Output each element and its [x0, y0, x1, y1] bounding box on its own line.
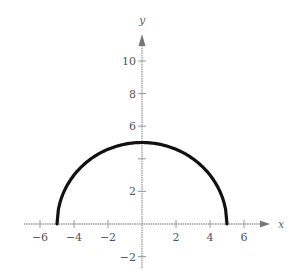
y-axis-label: y [138, 14, 146, 27]
axes [24, 34, 270, 268]
x-tick-label: 2 [173, 231, 180, 244]
x-axis-arrow-icon [260, 221, 270, 228]
y-tick-label: 10 [122, 55, 136, 68]
x-tick-label: 6 [241, 231, 248, 244]
semicircle-chart: −6−4−2246−226810 x y [0, 0, 296, 273]
y-tick-label: 6 [129, 120, 136, 133]
x-tick-label: −4 [66, 231, 82, 244]
x-tick-label: 4 [207, 231, 214, 244]
y-tick-label: −2 [120, 251, 136, 264]
y-tick-label: 8 [129, 88, 136, 101]
x-tick-label: −2 [100, 231, 116, 244]
x-axis-label: x [278, 218, 285, 231]
ticks: −6−4−2246−226810 [32, 55, 248, 264]
x-tick-label: −6 [32, 231, 48, 244]
y-tick-label: 2 [129, 185, 136, 198]
y-axis-arrow-icon [139, 34, 146, 46]
